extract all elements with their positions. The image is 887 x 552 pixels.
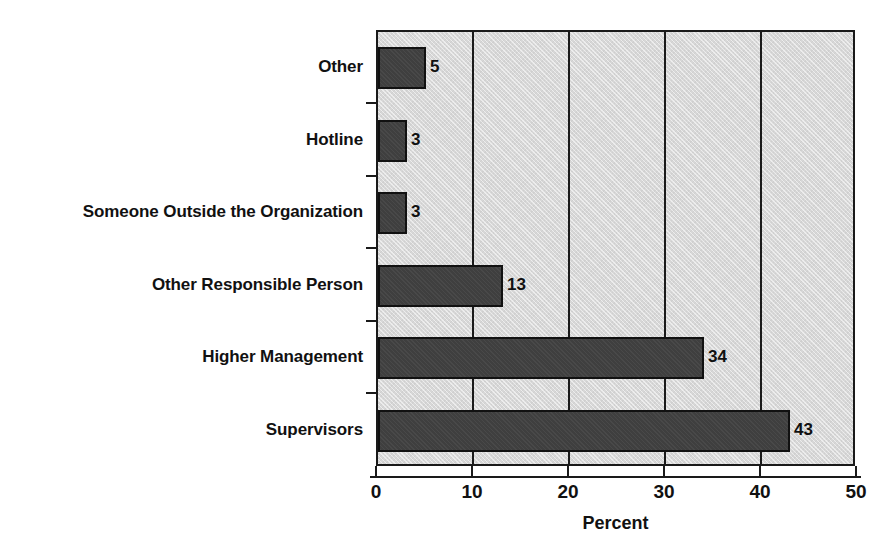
bar-value-other-responsible-person: 13: [507, 276, 526, 293]
x-axis-line: [370, 476, 861, 478]
gridline-40: [760, 32, 762, 464]
y-axis-tick-4: [366, 320, 376, 322]
y-axis-tick-5: [366, 392, 376, 394]
x-axis-tick-50: [855, 466, 857, 478]
bar-higher-management[interactable]: [378, 337, 704, 379]
y-axis-tick-1: [366, 102, 376, 104]
bar-value-other: 5: [430, 58, 439, 75]
y-axis-tick-3: [366, 247, 376, 249]
x-axis-title: Percent: [376, 514, 855, 534]
x-axis-tick-30: [663, 466, 665, 478]
x-axis-label-10: 10: [461, 482, 482, 503]
y-axis-tick-2: [366, 175, 376, 177]
category-label-other: Other: [318, 58, 363, 75]
bar-supervisors[interactable]: [378, 410, 790, 452]
category-label-higher-management: Higher Management: [202, 348, 363, 365]
bar-value-hotline: 3: [411, 131, 420, 148]
x-axis-label-20: 20: [557, 482, 578, 503]
category-label-other-responsible-person: Other Responsible Person: [152, 276, 363, 293]
bar-someone-outside-the-organization[interactable]: [378, 192, 407, 234]
x-axis-tick-20: [567, 466, 569, 478]
bar-value-higher-management: 34: [708, 348, 727, 365]
category-label-hotline: Hotline: [306, 131, 363, 148]
bar-value-supervisors: 43: [794, 421, 813, 438]
category-label-someone-outside-the-organization: Someone Outside the Organization: [83, 203, 363, 220]
bar-other-responsible-person[interactable]: [378, 265, 503, 307]
gridline-20: [568, 32, 570, 464]
bar-hotline[interactable]: [378, 120, 407, 162]
x-axis-label-30: 30: [653, 482, 674, 503]
bar-other[interactable]: [378, 47, 426, 89]
x-axis-tick-0: [375, 466, 377, 478]
x-axis-tick-10: [471, 466, 473, 478]
category-label-supervisors: Supervisors: [266, 421, 363, 438]
bar-value-someone-outside-the-organization: 3: [411, 203, 420, 220]
x-axis-label-40: 40: [749, 482, 770, 503]
bar-chart: Other Hotline Someone Outside the Organi…: [0, 0, 887, 552]
x-axis-label-50: 50: [845, 482, 866, 503]
gridline-30: [664, 32, 666, 464]
plot-area: [376, 30, 855, 466]
gridline-10: [472, 32, 474, 464]
x-axis-label-0: 0: [371, 482, 382, 503]
x-axis-tick-40: [759, 466, 761, 478]
